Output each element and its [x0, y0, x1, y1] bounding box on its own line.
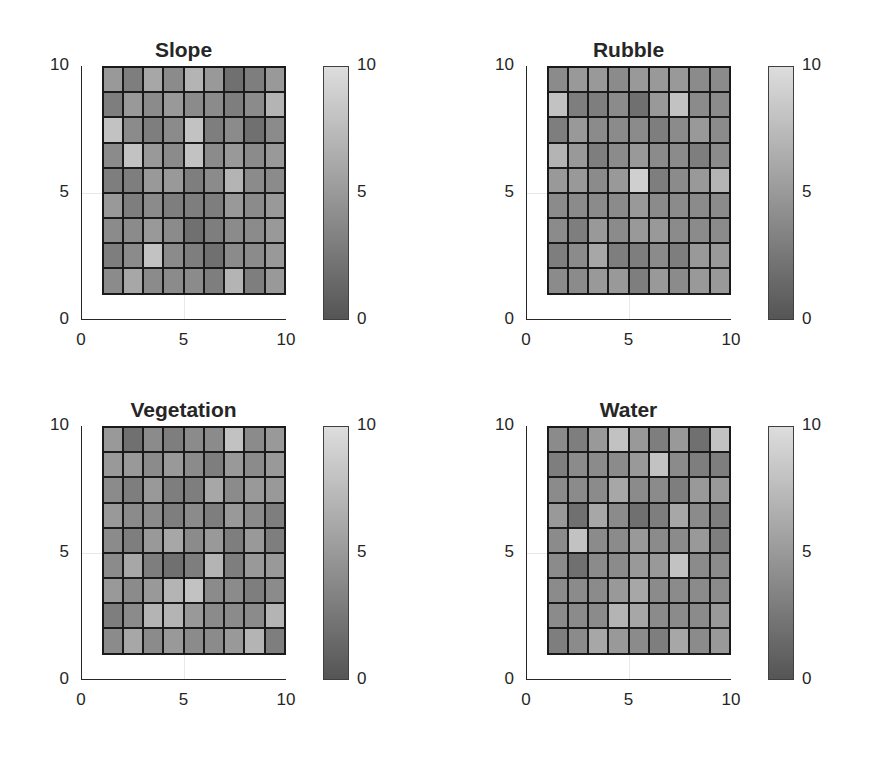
heatmap-cell — [163, 452, 183, 477]
heatmap-cell — [568, 117, 588, 142]
heatmap-cell — [224, 578, 244, 603]
heatmap-cell — [184, 168, 204, 193]
heatmap-cell — [669, 578, 689, 603]
heatmap-cell — [265, 243, 285, 268]
heatmap-cell — [184, 553, 204, 578]
heatmap-cell — [163, 578, 183, 603]
heatmap-cell — [123, 503, 143, 528]
chart-title: Water — [526, 398, 731, 422]
heatmap-grid — [102, 426, 287, 655]
heatmap-cell — [568, 553, 588, 578]
y-tick-label: 5 — [505, 542, 514, 562]
heatmap-grid — [547, 426, 732, 655]
heatmap-cell — [588, 143, 608, 168]
colorbar-tick-label: 10 — [357, 55, 376, 75]
heatmap-cell — [265, 67, 285, 92]
heatmap-cell — [669, 553, 689, 578]
heatmap-cell — [244, 92, 264, 117]
heatmap-cell — [588, 218, 608, 243]
heatmap-cell — [568, 168, 588, 193]
heatmap-cell — [710, 477, 730, 502]
x-tick-label: 10 — [722, 690, 741, 710]
heatmap-cell — [629, 427, 649, 452]
heatmap-cell — [710, 553, 730, 578]
heatmap-cell — [103, 578, 123, 603]
chart-panel-slope: Slope051005100510 — [0, 0, 436, 360]
heatmap-cell — [629, 243, 649, 268]
heatmap-cell — [103, 528, 123, 553]
y-tick-label: 5 — [60, 182, 69, 202]
heatmap-cell — [649, 92, 669, 117]
heatmap-cell — [710, 168, 730, 193]
heatmap-cell — [163, 168, 183, 193]
heatmap-cell — [710, 143, 730, 168]
heatmap-cell — [184, 578, 204, 603]
heatmap-cell — [163, 528, 183, 553]
heatmap-cell — [143, 143, 163, 168]
heatmap-cell — [649, 628, 669, 653]
heatmap-cell — [224, 477, 244, 502]
heatmap-cell — [568, 243, 588, 268]
heatmap-cell — [649, 578, 669, 603]
heatmap-cell — [204, 168, 224, 193]
heatmap-cell — [629, 268, 649, 293]
heatmap-cell — [184, 452, 204, 477]
heatmap-cell — [710, 268, 730, 293]
heatmap-cell — [568, 477, 588, 502]
heatmap-cell — [103, 628, 123, 653]
heatmap-cell — [710, 578, 730, 603]
heatmap-cell — [689, 477, 709, 502]
heatmap-cell — [265, 477, 285, 502]
heatmap-cell — [588, 268, 608, 293]
heatmap-cell — [143, 503, 163, 528]
heatmap-cell — [669, 218, 689, 243]
heatmap-cell — [629, 193, 649, 218]
heatmap-cell — [629, 477, 649, 502]
heatmap-cell — [103, 143, 123, 168]
heatmap-cell — [204, 452, 224, 477]
colorbar-tick-label: 0 — [357, 309, 366, 329]
heatmap-grid — [102, 66, 287, 295]
heatmap-cell — [265, 92, 285, 117]
heatmap-cell — [669, 92, 689, 117]
heatmap-cell — [669, 67, 689, 92]
heatmap-cell — [548, 193, 568, 218]
colorbar — [768, 426, 794, 680]
colorbar — [323, 426, 349, 680]
colorbar-tick-label: 0 — [802, 309, 811, 329]
heatmap-cell — [568, 218, 588, 243]
heatmap-cell — [568, 578, 588, 603]
heatmap-cell — [204, 553, 224, 578]
heatmap-cell — [548, 218, 568, 243]
heatmap-cell — [629, 218, 649, 243]
heatmap-cell — [103, 218, 123, 243]
heatmap-cell — [649, 553, 669, 578]
y-tick-label: 5 — [505, 182, 514, 202]
heatmap-cell — [568, 503, 588, 528]
colorbar-tick-label: 0 — [357, 669, 366, 689]
heatmap-cell — [143, 427, 163, 452]
x-tick-label: 10 — [277, 690, 296, 710]
heatmap-cell — [143, 528, 163, 553]
heatmap-cell — [669, 528, 689, 553]
heatmap-cell — [143, 92, 163, 117]
heatmap-cell — [629, 143, 649, 168]
y-tick-label: 10 — [495, 415, 514, 435]
heatmap-cell — [163, 553, 183, 578]
heatmap-cell — [669, 143, 689, 168]
heatmap-cell — [224, 243, 244, 268]
heatmap-cell — [204, 427, 224, 452]
heatmap-cell — [224, 143, 244, 168]
heatmap-cell — [608, 268, 628, 293]
heatmap-cell — [649, 117, 669, 142]
heatmap-cell — [123, 578, 143, 603]
heatmap-cell — [689, 427, 709, 452]
heatmap-cell — [123, 628, 143, 653]
heatmap-cell — [244, 528, 264, 553]
heatmap-cell — [649, 193, 669, 218]
heatmap-cell — [103, 243, 123, 268]
heatmap-cell — [568, 603, 588, 628]
heatmap-cell — [689, 67, 709, 92]
heatmap-cell — [244, 218, 264, 243]
y-tick-label: 10 — [495, 55, 514, 75]
